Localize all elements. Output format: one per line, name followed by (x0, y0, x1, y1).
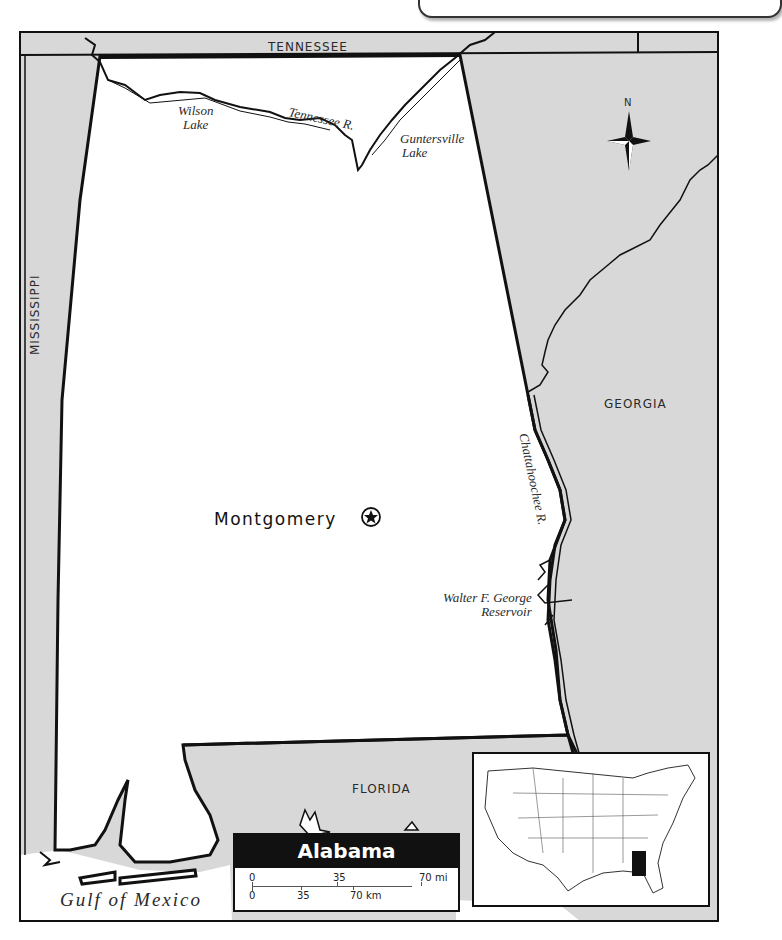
us-locator-map (473, 753, 709, 906)
scale-mi-35: 35 (333, 872, 346, 883)
label-walter-f-george-reservoir: Walter F. George Reservoir (443, 591, 532, 619)
scale-tick (337, 882, 338, 886)
capital-label-montgomery: Montgomery (214, 509, 337, 529)
state-label-florida: FLORIDA (352, 782, 411, 796)
map-title: Alabama (235, 835, 458, 868)
map-legend: Alabama 0 35 70 mi 0 35 70 km (233, 833, 460, 912)
scale-mi-70: 70 mi (419, 872, 447, 883)
state-label-georgia: GEORGIA (604, 397, 667, 411)
label-wilson-lake: Wilson Lake (178, 104, 213, 132)
scale-km-35: 35 (297, 890, 310, 901)
compass-north-label: N (624, 97, 631, 108)
scale-km-70: 70 km (350, 890, 381, 901)
label-guntersville-lake: Guntersville Lake (400, 132, 464, 160)
state-label-tennessee: TENNESSEE (268, 40, 348, 54)
scale-bar: 0 35 70 mi 0 35 70 km (235, 868, 458, 908)
state-label-mississippi: MISSISSIPPI (28, 275, 42, 355)
scale-line (252, 886, 412, 887)
scale-km-0: 0 (249, 890, 255, 901)
capital-star-icon (362, 508, 380, 526)
label-gulf-of-mexico: Gulf of Mexico (60, 889, 202, 911)
scale-tick (421, 882, 422, 886)
